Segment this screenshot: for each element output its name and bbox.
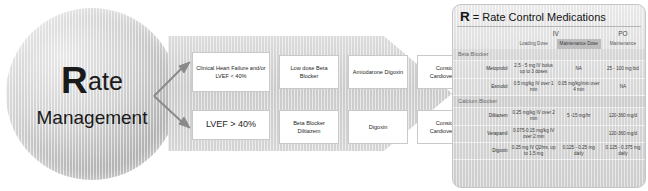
circle-title-line1: Rate — [61, 62, 123, 99]
table-section-header: Beta Blocker — [453, 49, 645, 61]
cell-maintenance-po-esmolol: NA — [601, 78, 645, 95]
cell-loading-esmolol: 0.5 mg/kg IV over 1 min — [511, 78, 557, 95]
flow-box-condition-hf[interactable]: Clinical Heart Failure and/or LVEF < 40% — [192, 52, 270, 92]
panel-title: R = Rate Control Medications — [453, 9, 645, 24]
drug-name-metoprolol: Metoprolol — [453, 61, 511, 78]
table-row: Metoprolol 2.5 - 5 mg IV bolus up to 3 d… — [453, 61, 645, 78]
flow-box-condition-lvef[interactable]: LVEF > 40% — [192, 110, 270, 140]
cell-maintenance-iv-verapamil — [557, 125, 601, 142]
subheader-maintenance-dose: Maintenance Dose — [557, 39, 601, 49]
subheader-drug — [453, 39, 511, 49]
cell-loading-digoxin: 0.25 mg IV Q2hrs, up to 1.5 mg — [511, 143, 557, 160]
table-section-header: Calcium Blocker — [453, 96, 645, 108]
table-subheader-row: Loading Dose Maintenance Dose Maintenanc… — [453, 39, 645, 49]
drug-name-verapamil: Verapamil — [453, 125, 511, 142]
subheader-loading-dose: Loading Dose — [511, 39, 557, 49]
cell-loading-verapamil: 0.075-0.15 mg/kg IV over 2 min — [511, 125, 557, 142]
section-label-beta-blocker: Beta Blocker — [453, 49, 645, 61]
table-row: Verapamil 0.075-0.15 mg/kg IV over 2 min… — [453, 125, 645, 142]
flow-box-treatment-bb-diltiazem[interactable]: Beta Blocker Diltiazem — [279, 110, 339, 144]
group-header-blank — [453, 28, 511, 39]
table-row: Esmolol 0.5 mg/kg IV over 1 min 0.05 mg/… — [453, 78, 645, 95]
medications-table: IV PO Loading Dose Maintenance Dose Main… — [453, 28, 645, 160]
table-group-header-row: IV PO — [453, 28, 645, 39]
cell-maintenance-po-diltiazem: 120-360 mg/d — [601, 108, 645, 125]
rate-control-medications-panel: R = Rate Control Medications IV PO Loadi… — [452, 4, 646, 188]
table-row: Diltiazem 0.25 mg/kg IV over 2 min 5 -15… — [453, 108, 645, 125]
medications-table-body: Beta Blocker Metoprolol 2.5 - 5 mg IV bo… — [453, 49, 645, 160]
cell-maintenance-iv-digoxin: 0.125 - 0.25 mg daily — [557, 143, 601, 160]
drug-name-esmolol: Esmolol — [453, 78, 511, 95]
cell-maintenance-po-digoxin: 0.125 - 0.375 mg daily — [601, 143, 645, 160]
cell-maintenance-po-verapamil: 120-360 mg/d — [601, 125, 645, 142]
cell-loading-metoprolol: 2.5 - 5 mg IV bolus up to 3 doses — [511, 61, 557, 78]
table-row: Digoxin 0.25 mg IV Q2hrs, up to 1.5 mg 0… — [453, 143, 645, 160]
circle-title-capital: R — [61, 60, 88, 101]
panel-title-capital: R — [460, 9, 470, 24]
cell-loading-diltiazem: 0.25 mg/kg IV over 2 min — [511, 108, 557, 125]
circle-subtitle: Management — [37, 108, 148, 127]
cell-maintenance-iv-metoprolol: NA — [557, 61, 601, 78]
panel-title-rest: = Rate Control Medications — [473, 11, 606, 23]
flow-box-treatment-amiodarone[interactable]: Amiodarone Digoxin — [348, 55, 408, 89]
group-header-po: PO — [601, 28, 645, 39]
group-header-iv: IV — [511, 28, 601, 39]
drug-name-digoxin: Digoxin — [453, 143, 511, 160]
flow-box-treatment-digoxin[interactable]: Digoxin — [348, 110, 408, 144]
section-label-calcium-blocker: Calcium Blocker — [453, 96, 645, 108]
cell-maintenance-iv-diltiazem: 5 -15 mg/hr — [557, 108, 601, 125]
circle-title-rest: ate — [88, 67, 123, 95]
cell-maintenance-iv-esmolol: 0.05 mg/kg/min over 4 min — [557, 78, 601, 95]
flow-box-treatment-lowdose-bb[interactable]: Low dose Beta Blocker — [279, 55, 339, 89]
panel-title-divider — [457, 26, 641, 27]
drug-name-diltiazem: Diltiazem — [453, 108, 511, 125]
cell-maintenance-po-metoprolol: 25 - 100 mg bid — [601, 61, 645, 78]
subheader-maintenance: Maintenance — [601, 39, 645, 49]
